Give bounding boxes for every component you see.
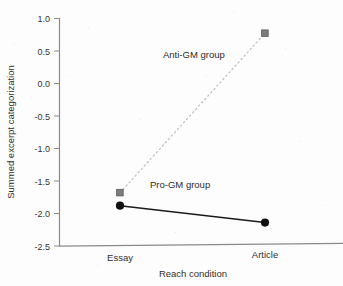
y-tick-label: 1.0 xyxy=(37,14,50,24)
y-tick-label: -0.5 xyxy=(34,112,50,122)
pro-gm-series-line xyxy=(120,206,265,223)
y-tick-marks xyxy=(54,19,60,247)
data-point-marker xyxy=(116,202,124,210)
data-point-marker xyxy=(262,30,269,37)
data-point-marker xyxy=(261,219,269,227)
x-tick-label-essay: Essay xyxy=(107,252,133,263)
x-axis-title: Reach condition xyxy=(159,268,227,279)
anti-gm-group-annotation: Anti-GM group xyxy=(163,49,225,60)
x-tick-label-article: Article xyxy=(252,249,278,260)
y-tick-label: 0.0 xyxy=(37,79,50,89)
y-tick-label: -2.5 xyxy=(34,242,50,252)
x-axis-line xyxy=(59,243,343,246)
line-chart: 1.0 0.5 0.0 -0.5 -1.0 -1.5 -2.0 -2.5 Sum… xyxy=(0,0,343,286)
y-tick-label: -1.0 xyxy=(34,144,50,154)
y-axis-title: Summed excerpt categorization xyxy=(5,65,16,199)
chart-figure: 1.0 0.5 0.0 -0.5 -1.0 -1.5 -2.0 -2.5 Sum… xyxy=(0,0,343,286)
pro-gm-group-annotation: Pro-GM group xyxy=(150,179,210,190)
y-tick-label: -2.0 xyxy=(34,209,50,219)
data-point-marker xyxy=(117,189,124,196)
y-tick-label: 0.5 xyxy=(37,47,50,57)
y-tick-label: -1.5 xyxy=(34,177,50,187)
y-tick-labels: 1.0 0.5 0.0 -0.5 -1.0 -1.5 -2.0 -2.5 xyxy=(34,14,50,252)
